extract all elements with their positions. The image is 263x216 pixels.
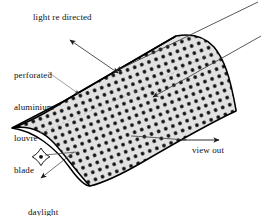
redirect-arrow-shaft <box>70 40 118 73</box>
redirected-light-arrow-icon <box>70 40 118 73</box>
label-louvre-blade: perforated aluminium louvre blade <box>14 49 54 196</box>
label-daylight-entry-line1: daylight <box>28 207 58 216</box>
label-louvre-blade-line2: aluminium <box>14 102 54 113</box>
label-daylight-entry: daylight entry <box>28 186 58 216</box>
label-light-redirected: light re directed <box>33 12 92 23</box>
label-view-out: view out <box>192 145 224 156</box>
louvre-blade-diagram: light re directed perforated aluminium l… <box>0 0 263 216</box>
label-louvre-blade-line3: louvre <box>14 133 54 144</box>
label-louvre-blade-line4: blade <box>14 165 54 176</box>
label-louvre-blade-line1: perforated <box>14 70 54 81</box>
